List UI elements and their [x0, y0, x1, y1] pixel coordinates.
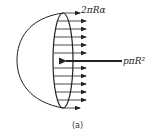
figure-caption: (a) — [72, 121, 83, 130]
pressure-force-label: pπR² — [123, 56, 145, 66]
hemisphere-force-diagram — [0, 0, 157, 136]
surface-tension-label: 2πRα — [81, 5, 106, 15]
